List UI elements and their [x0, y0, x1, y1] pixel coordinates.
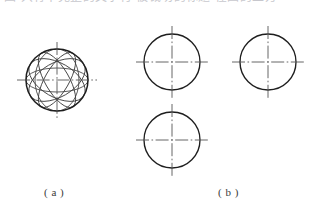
side-view-circle-group	[232, 26, 304, 98]
front-view-circle-group	[136, 104, 208, 176]
figure-a-caption: ( a )	[44, 186, 64, 198]
figure-b-group	[136, 26, 304, 176]
figure-b-caption: ( b )	[218, 186, 239, 198]
technical-drawing-canvas	[0, 0, 321, 213]
figure-a-group	[17, 42, 97, 119]
figure-page: 图 只有不完整的文字行 被裁切的标题 在图的上方	[0, 0, 321, 213]
top-view-circle-group	[136, 26, 208, 98]
